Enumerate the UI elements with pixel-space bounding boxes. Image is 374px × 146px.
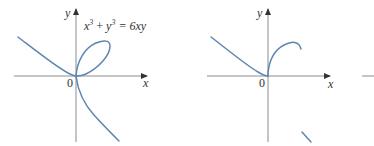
right-curve-upper-branch — [268, 42, 301, 76]
right-curve-left-branch — [211, 37, 268, 76]
right-origin-label: 0 — [259, 76, 265, 90]
left-y-axis-label: y — [64, 6, 71, 20]
eq-rhs: = 6xy — [115, 19, 146, 33]
eq-plus: + — [93, 19, 106, 33]
left-folium-upper-left-branch — [18, 37, 76, 76]
left-graph: y x 0 x3 + y3 = 6xy — [14, 6, 149, 142]
right-x-axis-label: x — [327, 77, 334, 91]
left-folium-lower-right-branch — [76, 76, 119, 141]
right-y-axis-label: y — [256, 6, 263, 20]
left-folium-loop — [76, 41, 110, 76]
right-graph: y x 0 — [207, 6, 334, 142]
figure-canvas: y x 0 x3 + y3 = 6xy y x 0 — [0, 0, 374, 146]
left-equation: x3 + y3 = 6xy — [83, 18, 147, 33]
left-x-axis-label: x — [142, 76, 149, 90]
right-curve-lower-segment — [302, 132, 311, 142]
left-origin-label: 0 — [67, 76, 73, 90]
